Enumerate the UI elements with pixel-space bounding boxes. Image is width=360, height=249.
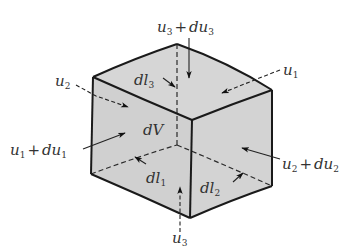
volume-element-diagram: u3+du3 u1 u2 dl3 dV u1+du1 u2+du2 dl1 dl… [0,0,360,249]
label-u1-plus-du1: u1+du1 [10,141,67,160]
label-u3-plus-du3: u3+du3 [157,18,214,37]
cube [91,44,272,218]
label-u2: u2 [55,72,70,91]
label-dV: dV [143,121,166,139]
label-u2-plus-du2: u2+du2 [282,155,339,174]
label-u1: u1 [283,61,298,80]
label-u3-bottom: u3 [172,229,188,248]
